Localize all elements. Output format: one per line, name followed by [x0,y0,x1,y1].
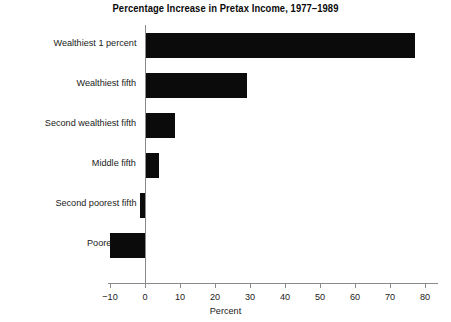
category-label: Second poorest fifth [55,197,136,208]
x-axis-tick [285,283,286,288]
x-axis-line [108,283,438,284]
bar-row: Middle fifth [0,145,451,185]
x-axis-tick [110,283,111,288]
x-axis-tick [320,283,321,288]
x-axis-tick [180,283,181,288]
x-axis-tick-label: 10 [166,291,195,302]
bar [145,113,175,138]
bar-row: Second wealthiest fifth [0,105,451,145]
x-axis-tick [355,283,356,288]
x-axis-tick-label: −10 [96,291,125,302]
x-axis-tick [425,283,426,288]
bar [145,73,247,98]
bar-row: Wealthiest fifth [0,65,451,105]
plot-area: Wealthiest 1 percentWealthiest fifthSeco… [0,25,451,285]
x-axis-tick [145,283,146,288]
x-axis-tick-label: 0 [131,291,160,302]
zero-baseline-axis [145,25,146,283]
x-axis-tick-label: 80 [411,291,440,302]
category-label: Wealthiest 1 percent [53,37,136,48]
bar-row: Poorest fifth [0,225,451,265]
bar-row: Wealthiest 1 percent [0,25,451,65]
x-axis-tick-label: 40 [271,291,300,302]
x-axis-tick [215,283,216,288]
x-axis-tick-label: 70 [376,291,405,302]
bar-chart: Percentage Increase in Pretax Income, 19… [0,0,451,322]
x-axis-tick [390,283,391,288]
x-axis-tick-label: 60 [341,291,370,302]
bar-row: Second poorest fifth [0,185,451,225]
bar [110,233,145,258]
x-axis-tick-label: 50 [306,291,335,302]
x-axis-tick-label: 30 [236,291,265,302]
category-label: Wealthiest fifth [76,77,136,88]
bar [145,153,159,178]
chart-title: Percentage Increase in Pretax Income, 19… [14,3,438,14]
x-axis-tick [250,283,251,288]
category-label: Middle fifth [92,157,136,168]
category-label: Second wealthiest fifth [45,117,136,128]
x-axis-tick-label: 20 [201,291,230,302]
x-axis-title: Percent [9,305,442,316]
bar [145,33,415,58]
